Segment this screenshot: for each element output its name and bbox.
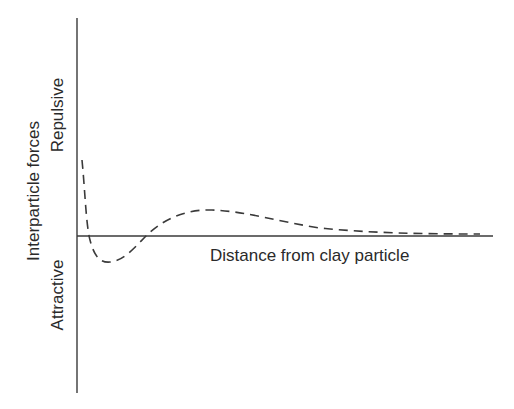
repulsive-label: Repulsive — [48, 78, 67, 153]
force-distance-diagram: Interparticle forces Repulsive Attractiv… — [0, 0, 514, 409]
attractive-label: Attractive — [48, 260, 67, 331]
x-axis-title: Distance from clay particle — [210, 246, 409, 265]
y-axis-title: Interparticle forces — [24, 121, 43, 261]
